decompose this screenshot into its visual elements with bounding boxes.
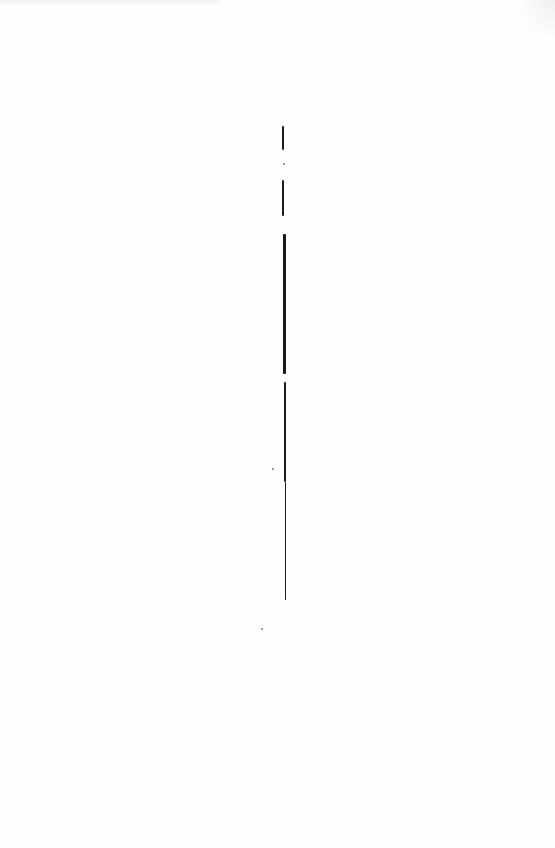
scan-artifact — [0, 0, 220, 6]
ink-speck — [261, 628, 263, 630]
line-segment — [284, 382, 286, 482]
line-segment — [283, 234, 286, 374]
scan-artifact — [515, 0, 555, 40]
document-page — [0, 0, 555, 848]
ink-speck — [283, 163, 285, 165]
line-segment — [282, 126, 284, 150]
line-segment — [282, 180, 284, 216]
line-segment — [285, 482, 286, 600]
ink-speck — [272, 468, 274, 470]
